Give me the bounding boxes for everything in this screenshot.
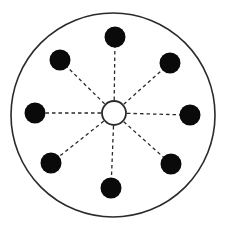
node-right [180,105,201,126]
hub-and-spoke-diagram [0,0,226,229]
node-upper-right [160,53,181,74]
center-hub-node [102,101,126,125]
node-top [105,27,126,48]
node-lower-left [41,153,62,174]
node-upper-left [50,50,71,71]
node-left [25,103,46,124]
node-bottom [101,178,122,199]
node-lower-right [161,154,182,175]
